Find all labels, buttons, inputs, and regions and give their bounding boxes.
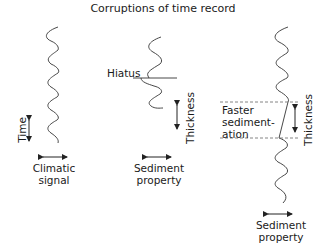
diagram-graphics — [0, 0, 326, 247]
sediment-property-label-right: Sediment property — [250, 219, 312, 243]
sediment-property-line1: Sediment — [128, 162, 190, 174]
faster-line2: sediment- — [222, 116, 275, 128]
climatic-signal-line1: Climatic — [28, 162, 80, 174]
time-label: Time — [16, 116, 28, 144]
faster-sedimentation-segment — [279, 102, 288, 138]
hiatus-lower-wave — [141, 78, 163, 108]
sediment-property-right-line1: Sediment — [250, 219, 312, 231]
climatic-signal-wave — [46, 27, 58, 143]
sediment-property-right-line2: property — [250, 231, 312, 243]
faster-upper-wave — [275, 27, 288, 102]
climatic-signal-line2: signal — [28, 174, 80, 186]
faster-line1: Faster — [222, 104, 275, 116]
faster-lower-wave — [275, 138, 287, 203]
thickness-label-right: Thickness — [302, 94, 314, 146]
faster-sedimentation-label: Faster sediment- ation — [222, 104, 275, 140]
hiatus-label: Hiatus — [107, 67, 141, 79]
sediment-property-label-middle: Sediment property — [128, 162, 190, 186]
climatic-signal-label: Climatic signal — [28, 162, 80, 186]
faster-line3: ation — [222, 128, 275, 140]
hiatus-upper-wave — [148, 37, 162, 78]
thickness-label-middle: Thickness — [184, 92, 196, 144]
sediment-property-line2: property — [128, 174, 190, 186]
